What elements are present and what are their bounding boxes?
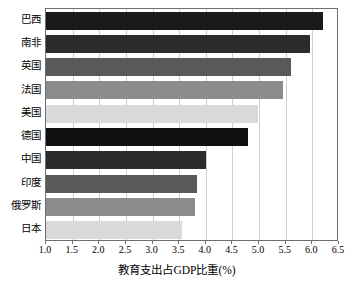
y-axis-label: 日本 [0, 223, 41, 234]
x-tick-label: 2.5 [110, 244, 140, 256]
y-axis-label: 中国 [0, 153, 41, 164]
x-tick-label: 6.0 [296, 244, 326, 256]
bar[interactable] [46, 35, 310, 53]
y-axis-label: 巴西 [0, 14, 41, 25]
bar-row [46, 32, 338, 55]
bar-row [46, 56, 338, 79]
bar-row [46, 195, 338, 218]
bar-row [46, 126, 338, 149]
bar-row [46, 172, 338, 195]
x-tick-label: 6.5 [323, 244, 353, 256]
bar[interactable] [46, 151, 206, 169]
x-tick-label: 1.5 [57, 244, 87, 256]
bar[interactable] [46, 221, 182, 239]
bar-row [46, 79, 338, 102]
y-axis-label: 印度 [0, 177, 41, 188]
x-tick-label: 3.5 [163, 244, 193, 256]
x-tick-label: 5.0 [243, 244, 273, 256]
x-tick-label: 4.5 [216, 244, 246, 256]
bar[interactable] [46, 105, 258, 123]
x-tick-label: 3.0 [137, 244, 167, 256]
bar[interactable] [46, 81, 283, 99]
bar-row [46, 149, 338, 172]
bar[interactable] [46, 175, 197, 193]
x-axis-title: 教育支出占GDP比重(%) [0, 263, 354, 277]
bar[interactable] [46, 58, 291, 76]
x-tick-label: 1.0 [30, 244, 60, 256]
x-tick-label: 4.0 [190, 244, 220, 256]
x-tick-label: 2.0 [83, 244, 113, 256]
bar[interactable] [46, 12, 323, 30]
y-axis-label: 英国 [0, 60, 41, 71]
y-axis-label: 德国 [0, 130, 41, 141]
bar[interactable] [46, 198, 195, 216]
x-axis-ticks: 1.01.52.02.53.03.54.04.55.05.56.06.5 [45, 241, 338, 259]
y-axis-label: 法国 [0, 84, 41, 95]
plot-area [45, 8, 338, 241]
y-axis-label: 俄罗斯 [0, 200, 41, 211]
bar-row [46, 219, 338, 241]
bar-chart-figure: 巴西南非英国法国美国德国中国印度俄罗斯日本 1.01.52.02.53.03.5… [0, 0, 354, 286]
bar-row [46, 9, 338, 32]
bar-row [46, 102, 338, 125]
y-axis-label: 南非 [0, 37, 41, 48]
y-axis-label: 美国 [0, 107, 41, 118]
y-axis-category-labels: 巴西南非英国法国美国德国中国印度俄罗斯日本 [0, 8, 41, 241]
bar[interactable] [46, 128, 248, 146]
bars-container [46, 9, 337, 240]
x-tick-label: 5.5 [270, 244, 300, 256]
